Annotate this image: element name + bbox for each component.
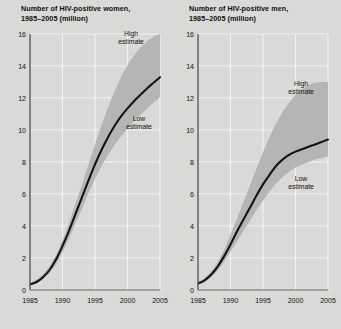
y-tick-label: 16 — [178, 31, 194, 38]
y-tick-label: 14 — [10, 63, 26, 70]
y-tick-label: 12 — [10, 95, 26, 102]
y-tick-label: 2 — [178, 255, 194, 262]
y-tick-label: 4 — [10, 223, 26, 230]
y-tick-label: 12 — [178, 95, 194, 102]
y-tick-label: 6 — [10, 191, 26, 198]
annotation-low-estimate-women: Low estimate — [116, 115, 162, 131]
x-tick-label: 1995 — [250, 297, 276, 304]
annotation-low-estimate-men: Low estimate — [278, 175, 324, 191]
y-tick-label: 4 — [178, 223, 194, 230]
y-tick-label: 14 — [178, 63, 194, 70]
x-tick-label: 2005 — [315, 297, 341, 304]
y-tick-label: 8 — [10, 159, 26, 166]
y-tick-label: 8 — [178, 159, 194, 166]
x-tick-label: 1990 — [218, 297, 244, 304]
annotation-high-estimate-men: High estimate — [278, 80, 324, 96]
y-tick-label: 16 — [10, 31, 26, 38]
y-tick-label: 0 — [10, 287, 26, 294]
x-tick-label: 2000 — [283, 297, 309, 304]
y-tick-label: 6 — [178, 191, 194, 198]
y-tick-label: 2 — [10, 255, 26, 262]
y-tick-label: 0 — [178, 287, 194, 294]
annotation-high-estimate-women: High estimate — [108, 30, 154, 46]
x-tick-label: 1985 — [17, 297, 43, 304]
x-tick-label: 1995 — [82, 297, 108, 304]
chart-panel-men: Number of HIV-positive men, 1985–2005 (m… — [168, 0, 336, 329]
x-tick-label: 1990 — [50, 297, 76, 304]
x-tick-label: 2000 — [115, 297, 141, 304]
x-tick-label: 1985 — [185, 297, 211, 304]
y-tick-label: 10 — [178, 127, 194, 134]
chart-panel-women: Number of HIV-positive women, 1985–2005 … — [0, 0, 168, 329]
y-tick-label: 10 — [10, 127, 26, 134]
